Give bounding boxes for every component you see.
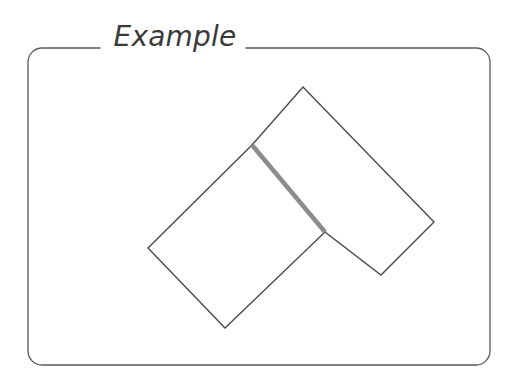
- figure-canvas: [0, 0, 507, 392]
- panel-border: [28, 48, 490, 365]
- panel-title: Example: [102, 20, 248, 54]
- panel-border-left-segment: [28, 48, 490, 365]
- shared-edge-highlight: [252, 145, 325, 232]
- left-quadrilateral: [148, 145, 325, 328]
- example-figure-panel: Example: [0, 0, 507, 392]
